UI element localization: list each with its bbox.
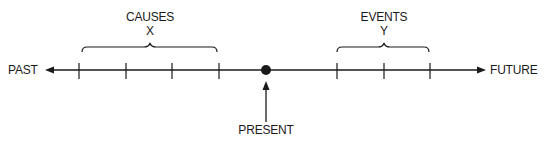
cause-ticks — [79, 63, 219, 79]
future-arrow-icon — [477, 67, 486, 74]
event-ticks — [337, 63, 430, 79]
causes-brace — [82, 43, 217, 52]
events-variable: Y — [344, 25, 424, 38]
causes-title: CAUSES — [110, 11, 190, 24]
events-brace — [337, 43, 429, 52]
present-arrow-icon — [263, 81, 270, 90]
past-label: PAST — [8, 64, 38, 77]
past-arrow-icon — [45, 67, 54, 74]
events-title: EVENTS — [344, 11, 424, 24]
causes-variable: X — [110, 25, 190, 38]
present-label: PRESENT — [236, 124, 296, 137]
present-dot-icon — [261, 65, 271, 75]
future-label: FUTURE — [490, 64, 537, 77]
timeline-diagram — [0, 0, 548, 142]
